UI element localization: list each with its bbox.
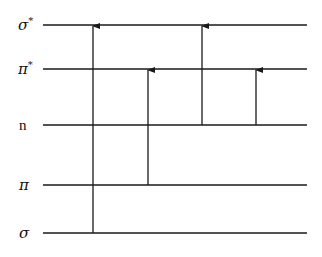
level-label-sigma-star: σ* <box>18 15 33 34</box>
level-label-n: n <box>19 117 27 133</box>
energy-level-diagram: σ* π* n π σ <box>0 0 322 257</box>
level-label-pi: π <box>18 176 30 194</box>
level-label-sigma: σ <box>19 224 30 242</box>
level-label-pi-star: π* <box>17 59 33 78</box>
